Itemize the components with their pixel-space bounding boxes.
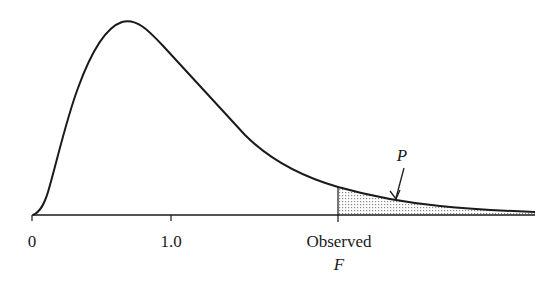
p-label: P [396, 146, 407, 165]
f-label: F [333, 255, 345, 274]
tick-label-0: 0 [28, 232, 37, 251]
tick-label-1: 1.0 [160, 232, 181, 251]
p-arrow-shaft [396, 168, 404, 198]
observed-label: Observed [306, 232, 372, 251]
p-arrow-head [390, 190, 400, 199]
f-distribution-chart: 0 1.0 Observed F P [0, 0, 560, 284]
density-curve [33, 21, 535, 215]
